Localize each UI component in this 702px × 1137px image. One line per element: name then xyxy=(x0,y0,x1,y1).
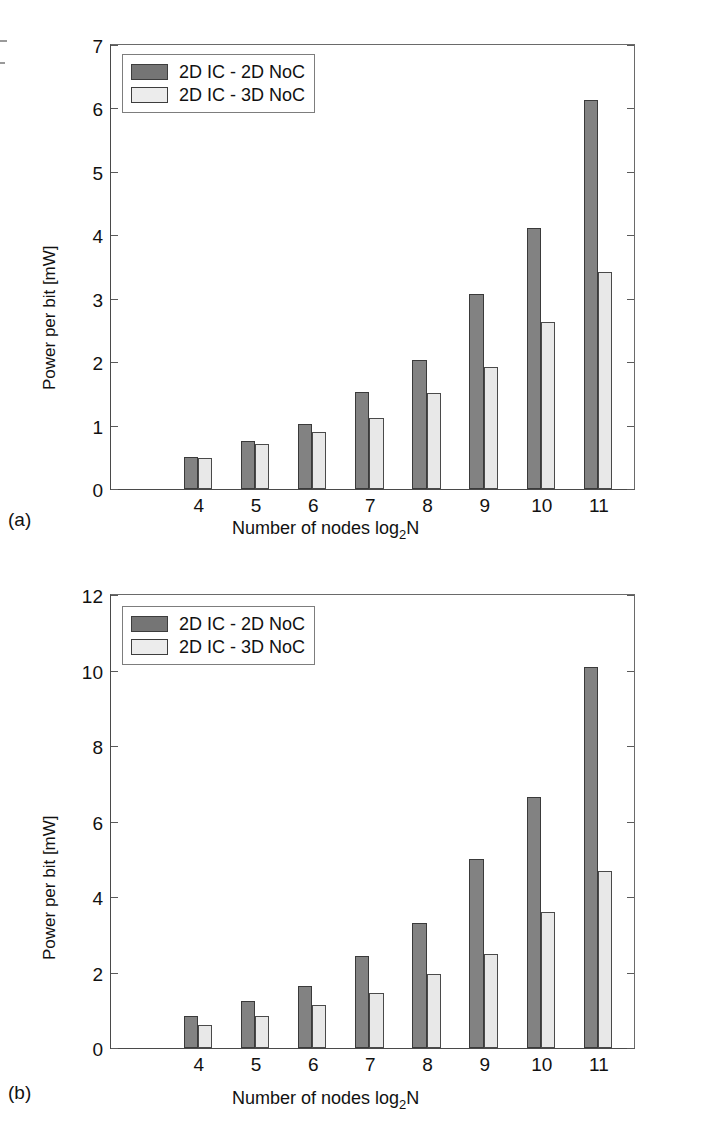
y-axis-tick: 8 xyxy=(111,746,118,747)
bar-b-5-series0 xyxy=(241,1001,255,1048)
x-axis-label-b: Number of nodes log2N xyxy=(232,1088,419,1112)
y-axis-tick-right xyxy=(627,299,634,300)
bar-b-8-series0 xyxy=(412,923,426,1048)
y-axis-tick-label: 6 xyxy=(92,100,103,119)
y-axis-tick: 4 xyxy=(111,897,118,898)
legend-item: 2D IC - 3D NoC xyxy=(131,83,305,106)
bar-a-11-series1 xyxy=(598,272,612,489)
legend-swatch-series-0 xyxy=(131,64,168,80)
bar-a-4-series1 xyxy=(198,458,212,489)
x-axis-label-post-a: N xyxy=(406,518,419,538)
y-axis-tick: 2 xyxy=(111,973,118,974)
legend-label-series-0: 2D IC - 2D NoC xyxy=(179,615,305,633)
bar-b-4-series1 xyxy=(198,1025,212,1048)
legend-a: 2D IC - 2D NoC 2D IC - 3D NoC xyxy=(122,54,315,113)
axes-a: 012345674567891011 2D IC - 2D NoC 2D IC … xyxy=(110,44,635,490)
y-axis-tick-label: 7 xyxy=(92,37,103,56)
bar-a-8-series0 xyxy=(412,360,426,489)
bar-b-9-series0 xyxy=(469,859,483,1048)
x-axis-tick-label: 7 xyxy=(365,496,376,515)
y-axis-tick-label: 0 xyxy=(92,481,103,500)
legend-label-series-1: 2D IC - 3D NoC xyxy=(179,638,305,656)
legend-label-series-0: 2D IC - 2D NoC xyxy=(179,63,305,81)
y-axis-tick-label: 12 xyxy=(82,587,103,606)
y-axis-tick-right xyxy=(627,746,634,747)
y-axis-tick-label: 10 xyxy=(82,662,103,681)
x-axis-label-pre-a: Number of nodes log xyxy=(232,518,399,538)
bar-b-11-series0 xyxy=(584,667,598,1048)
y-axis-tick-right xyxy=(627,595,634,596)
bar-b-6-series0 xyxy=(298,986,312,1048)
scan-edge-mark xyxy=(0,40,7,42)
x-axis-tick-label: 4 xyxy=(194,496,205,515)
legend-swatch-series-1 xyxy=(131,639,168,655)
y-axis-tick-label: 5 xyxy=(92,163,103,182)
y-axis-tick: 0 xyxy=(111,1048,118,1049)
y-axis-tick-right xyxy=(627,1048,634,1049)
bar-b-6-series1 xyxy=(312,1005,326,1048)
legend-label-series-1: 2D IC - 3D NoC xyxy=(179,86,305,104)
panel-caption-b: (b) xyxy=(8,1082,31,1104)
bar-a-5-series0 xyxy=(241,441,255,489)
y-axis-tick-right xyxy=(627,45,634,46)
y-axis-tick: 6 xyxy=(111,822,118,823)
y-axis-tick: 4 xyxy=(111,235,118,236)
x-axis-label-pre-b: Number of nodes log xyxy=(232,1088,399,1108)
y-axis-label-b: Power per bit [mW] xyxy=(40,815,60,960)
bar-a-5-series1 xyxy=(255,444,269,489)
legend-swatch-series-0 xyxy=(131,616,168,632)
y-axis-tick-right xyxy=(627,489,634,490)
x-axis-tick-label: 8 xyxy=(422,496,433,515)
y-axis-tick-label: 4 xyxy=(92,227,103,246)
y-axis-tick: 5 xyxy=(111,172,118,173)
bar-b-7-series0 xyxy=(355,956,369,1048)
chart-panel-b: Power per bit [mW] 0246810124567891011 2… xyxy=(0,560,702,1137)
bar-b-10-series0 xyxy=(527,797,541,1048)
legend-swatch-series-1 xyxy=(131,87,168,103)
bar-a-9-series0 xyxy=(469,294,483,489)
y-axis-tick-right xyxy=(627,822,634,823)
y-axis-tick-right xyxy=(627,671,634,672)
bar-a-7-series0 xyxy=(355,392,369,489)
y-axis-tick: 2 xyxy=(111,362,118,363)
y-axis-tick-label: 4 xyxy=(92,889,103,908)
axes-b: 0246810124567891011 2D IC - 2D NoC 2D IC… xyxy=(110,594,635,1049)
y-axis-tick-right xyxy=(627,973,634,974)
y-axis-tick-label: 6 xyxy=(92,813,103,832)
y-axis-tick: 0 xyxy=(111,489,118,490)
bar-a-9-series1 xyxy=(484,367,498,489)
y-axis-tick-label: 2 xyxy=(92,354,103,373)
y-axis-tick: 7 xyxy=(111,45,118,46)
chart-panel-a: Power per bit [mW] 012345674567891011 2D… xyxy=(0,0,702,560)
x-axis-label-a: Number of nodes log2N xyxy=(232,518,419,542)
y-axis-tick-right xyxy=(627,235,634,236)
plot-area-a: Power per bit [mW] 012345674567891011 2D… xyxy=(0,0,702,520)
x-axis-label-post-b: N xyxy=(406,1088,419,1108)
y-axis-tick-right xyxy=(627,426,634,427)
y-axis-tick: 1 xyxy=(111,426,118,427)
y-axis-tick-label: 3 xyxy=(92,290,103,309)
bar-b-4-series0 xyxy=(184,1016,198,1048)
y-axis-tick-right xyxy=(627,362,634,363)
bar-a-4-series0 xyxy=(184,457,198,489)
y-axis-tick: 12 xyxy=(111,595,118,596)
y-axis-tick-label: 0 xyxy=(92,1040,103,1059)
bar-b-5-series1 xyxy=(255,1016,269,1048)
scan-edge-mark xyxy=(0,62,5,64)
y-axis-tick-right xyxy=(627,108,634,109)
bar-b-10-series1 xyxy=(541,912,555,1048)
figure: Power per bit [mW] 012345674567891011 2D… xyxy=(0,0,702,1137)
x-axis-tick-label: 7 xyxy=(365,1055,376,1074)
y-axis-tick: 6 xyxy=(111,108,118,109)
x-axis-tick-label: 10 xyxy=(531,496,552,515)
x-axis-tick-label: 5 xyxy=(251,1055,262,1074)
y-axis-label-a: Power per bit [mW] xyxy=(40,245,60,390)
x-axis-tick-label: 11 xyxy=(589,1055,609,1074)
y-axis-tick-label: 2 xyxy=(92,964,103,983)
bar-b-7-series1 xyxy=(369,993,383,1048)
x-axis-tick-label: 10 xyxy=(531,1055,552,1074)
x-axis-tick-label: 11 xyxy=(589,496,609,515)
y-axis-tick-right xyxy=(627,172,634,173)
bar-a-8-series1 xyxy=(427,393,441,489)
y-axis-tick-label: 8 xyxy=(92,738,103,757)
